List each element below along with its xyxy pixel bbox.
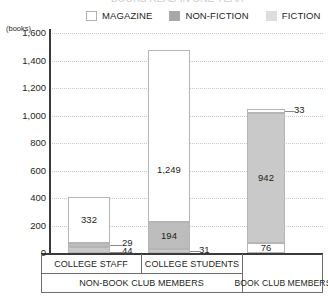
bar-segment-non-fiction-college-students: 194	[148, 222, 190, 249]
category-table-bottom-border	[41, 292, 323, 293]
bar-label-non-fiction-book-club-members: 76	[261, 243, 272, 253]
bar-label-non-fiction-college-students: 194	[161, 231, 177, 241]
leader-line-college-staff-29	[110, 245, 122, 246]
y-tick-600: 600	[2, 166, 46, 176]
leader-line-book-club-33	[285, 111, 294, 112]
bar-segment-non-fiction-college-staff	[68, 243, 110, 247]
y-tick-400: 400	[2, 193, 46, 203]
legend-item-fiction: FICTION	[266, 10, 321, 21]
chart-legend: MAGAZINE NON-FICTION FICTION	[86, 9, 324, 22]
stacked-bar-chart: BOOKS READ IN ONE YEAR MAGAZINE NON-FICT…	[0, 0, 328, 306]
y-tick-1400: 1,400	[2, 56, 46, 66]
chart-title-clipped: BOOKS READ IN ONE YEAR	[70, 0, 285, 5]
non-fiction-swatch-icon	[169, 11, 180, 21]
bar-college-staff: 332	[68, 197, 110, 253]
bar-segment-magazine-college-staff: 332	[68, 197, 110, 243]
y-tick-1200: 1,200	[2, 83, 46, 93]
y-tick-200: 200	[2, 221, 46, 231]
legend-item-magazine: MAGAZINE	[86, 10, 152, 21]
legend-item-non-fiction: NON-FICTION	[169, 10, 248, 21]
bar-label-magazine-college-students: 1,249	[157, 165, 181, 175]
category-label-table: COLLEGE STAFF COLLEGE STUDENTS NON-BOOK …	[41, 254, 323, 292]
category-table-inner-divider	[41, 273, 243, 274]
y-axis-tick-labels: 1,600 1,400 1,200 1,000 800 600 400 200 …	[0, 29, 46, 257]
fiction-swatch-icon	[266, 11, 277, 21]
legend-label-fiction: FICTION	[282, 10, 321, 21]
bar-segment-fiction-book-club-members: 942	[247, 113, 285, 243]
gridline-1600	[49, 33, 323, 34]
category-group-non-book-club-members: NON-BOOK CLUB MEMBERS	[41, 273, 243, 292]
y-tick-1600: 1,600	[2, 28, 46, 38]
y-tick-800: 800	[2, 138, 46, 148]
category-spacer	[243, 254, 323, 273]
bar-segment-non-fiction-book-club-members: 76	[247, 243, 285, 254]
legend-label-magazine: MAGAZINE	[102, 10, 152, 21]
y-tick-1000: 1,000	[2, 111, 46, 121]
category-college-staff: COLLEGE STAFF	[41, 254, 142, 273]
category-group-book-club-members: BOOK CLUB MEMBERS	[243, 273, 323, 292]
bar-college-students: 194 1,249	[148, 50, 190, 253]
bar-label-magazine-book-club-members: 33	[294, 105, 305, 115]
bar-segment-magazine-book-club-members	[247, 109, 285, 114]
bar-book-club-members: 76 942	[247, 109, 285, 254]
bar-label-magazine-college-staff: 332	[81, 215, 97, 225]
y-tick-0: 0	[2, 248, 46, 258]
bar-segment-magazine-college-students: 1,249	[148, 50, 190, 222]
y-axis-line	[49, 29, 51, 254]
leader-line-college-students-31	[190, 251, 199, 252]
category-row-individual: COLLEGE STAFF COLLEGE STUDENTS	[41, 254, 323, 273]
bar-label-fiction-book-club-members: 942	[258, 173, 274, 183]
legend-label-non-fiction: NON-FICTION	[185, 10, 248, 21]
plot-area: 332 29 44 194 1,249 31 76	[49, 30, 323, 253]
magazine-swatch-icon	[86, 11, 97, 21]
category-college-students: COLLEGE STUDENTS	[142, 254, 243, 273]
category-row-group: NON-BOOK CLUB MEMBERS BOOK CLUB MEMBERS	[41, 273, 323, 292]
